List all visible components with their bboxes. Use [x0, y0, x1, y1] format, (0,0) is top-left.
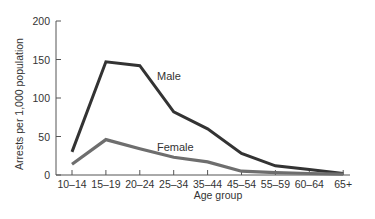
x-tick-label: 25–34	[159, 178, 188, 190]
y-axis: 050100150200	[32, 15, 61, 181]
y-tick-label: 150	[32, 54, 50, 66]
x-tick-label: 20–24	[125, 178, 154, 190]
x-tick-label: 60–64	[295, 178, 324, 190]
y-tick-label: 100	[32, 92, 50, 104]
y-tick-label: 50	[38, 131, 50, 143]
x-tick-label: 65+	[334, 178, 352, 190]
x-tick-label: 15–19	[91, 178, 120, 190]
x-tick-label: 10–14	[57, 178, 86, 190]
male-series-label: Male	[157, 70, 181, 82]
y-tick-label: 0	[44, 169, 50, 181]
y-axis-title: Arrests per 1,000 population	[13, 38, 25, 170]
y-tick-label: 200	[32, 15, 50, 27]
x-axis-title: Age group	[194, 189, 243, 201]
x-tick-label: 55–59	[261, 178, 290, 190]
female-series-label: Female	[157, 141, 194, 153]
line-chart: 050100150200 10–1415–1920–2425–3435–4445…	[0, 0, 375, 219]
male-line	[72, 62, 343, 174]
series-lines	[72, 62, 343, 174]
